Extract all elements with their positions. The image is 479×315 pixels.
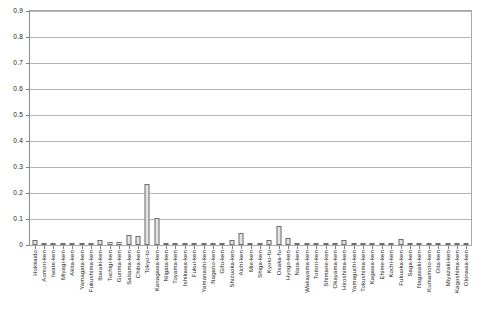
x-tick-label: Kanagawa-ken: [154, 250, 160, 291]
bar[interactable]: [426, 243, 431, 245]
bar[interactable]: [351, 243, 356, 245]
x-tick-label: Okayama-ken: [332, 250, 338, 288]
bar[interactable]: [436, 243, 441, 245]
bar-slot: [199, 11, 208, 245]
x-tick-mark: [119, 246, 120, 249]
bar[interactable]: [342, 240, 347, 245]
bar[interactable]: [323, 243, 328, 245]
x-tick-label: Miyagi-ken: [60, 250, 66, 280]
bar-slot: [180, 11, 189, 245]
x-tick-label: Nara-ken: [294, 250, 300, 275]
bar-slot: [358, 11, 367, 245]
bar[interactable]: [248, 243, 253, 245]
x-tick-label: Miyazaki-ken: [445, 250, 451, 286]
y-tick-label-0.1: 0.1: [13, 216, 23, 223]
x-tick-mark: [344, 246, 345, 249]
bar[interactable]: [314, 243, 319, 245]
bar[interactable]: [464, 243, 469, 245]
bar[interactable]: [370, 243, 375, 245]
x-tick-mark: [129, 246, 130, 249]
y-tick-mark: [26, 37, 29, 38]
bar[interactable]: [276, 226, 281, 245]
bar[interactable]: [332, 243, 337, 245]
bar[interactable]: [304, 243, 309, 245]
x-tick-mark: [326, 246, 327, 249]
bar[interactable]: [79, 243, 84, 245]
bar[interactable]: [145, 184, 150, 245]
x-tick-label: Hiroshima-ken: [341, 250, 347, 290]
bar[interactable]: [210, 243, 215, 245]
x-tick-mark: [100, 246, 101, 249]
bar[interactable]: [445, 243, 450, 245]
x-tick-mark: [372, 246, 373, 249]
x-tick-label: Tokushima-ken: [360, 250, 366, 292]
bar[interactable]: [126, 235, 131, 245]
bar[interactable]: [408, 243, 413, 245]
bar-slot: [387, 11, 396, 245]
x-tick-label: Fukuoka-ken: [398, 250, 404, 286]
bar-slot: [39, 11, 48, 245]
x-tick-mark: [251, 246, 252, 249]
x-tick-mark: [316, 246, 317, 249]
x-tick-mark: [279, 246, 280, 249]
bar-slot: [302, 11, 311, 245]
bar[interactable]: [267, 240, 272, 245]
bar[interactable]: [220, 243, 225, 245]
y-tick-label-0: 0: [19, 242, 23, 249]
bar[interactable]: [32, 240, 37, 245]
x-tick-label: Toyama-ken: [172, 250, 178, 284]
x-tick-mark: [175, 246, 176, 249]
x-tick-label: Fukui-ken: [191, 250, 197, 277]
x-tick-label: Ehime-ken: [379, 250, 385, 280]
bar[interactable]: [286, 238, 291, 245]
bar-slot: [293, 11, 302, 245]
bar[interactable]: [389, 243, 394, 245]
bar[interactable]: [454, 243, 459, 245]
bar[interactable]: [42, 243, 47, 245]
bar[interactable]: [182, 243, 187, 245]
bar-slot: [274, 11, 283, 245]
bar[interactable]: [201, 243, 206, 245]
x-tick-mark: [448, 246, 449, 249]
bar[interactable]: [107, 242, 112, 245]
bar[interactable]: [229, 240, 234, 245]
x-tick-label: Tokyo-to: [144, 250, 150, 273]
x-tick-mark: [147, 246, 148, 249]
x-tick-label: Chiba-ken: [135, 250, 141, 278]
x-tick-label: Kagawa-ken: [369, 250, 375, 284]
bar-slot: [405, 11, 414, 245]
x-tick-label: Oita-ken: [435, 250, 441, 273]
bar[interactable]: [154, 218, 159, 245]
bar[interactable]: [173, 243, 178, 245]
x-tick-mark: [288, 246, 289, 249]
bar[interactable]: [295, 243, 300, 245]
bar[interactable]: [98, 240, 103, 245]
bar-slot: [227, 11, 236, 245]
bar[interactable]: [135, 236, 140, 245]
x-tick-label: Iwate-ken: [50, 250, 56, 277]
bar[interactable]: [239, 233, 244, 245]
bar[interactable]: [379, 243, 384, 245]
bar[interactable]: [398, 239, 403, 245]
y-tick-mark: [26, 141, 29, 142]
x-tick-label: Shizuoka-ken: [229, 250, 235, 288]
bar-slot: [368, 11, 377, 245]
bar[interactable]: [192, 243, 197, 245]
bar-slot: [133, 11, 142, 245]
bar[interactable]: [257, 243, 262, 245]
x-tick-label: Nagasaki-ken: [416, 250, 422, 288]
bar[interactable]: [164, 243, 169, 245]
bar[interactable]: [60, 243, 65, 245]
y-tick-label-0.5: 0.5: [13, 112, 23, 119]
bar-slot: [105, 11, 114, 245]
y-tick-mark: [26, 11, 29, 12]
bar[interactable]: [417, 243, 422, 245]
x-tick-mark: [307, 246, 308, 249]
y-tick-mark: [26, 115, 29, 116]
bar[interactable]: [51, 243, 56, 245]
bar[interactable]: [88, 243, 93, 245]
bar[interactable]: [361, 243, 366, 245]
x-tick-label: Yamaguchi-ken: [351, 250, 357, 293]
bar[interactable]: [117, 242, 122, 245]
bar[interactable]: [70, 243, 75, 245]
